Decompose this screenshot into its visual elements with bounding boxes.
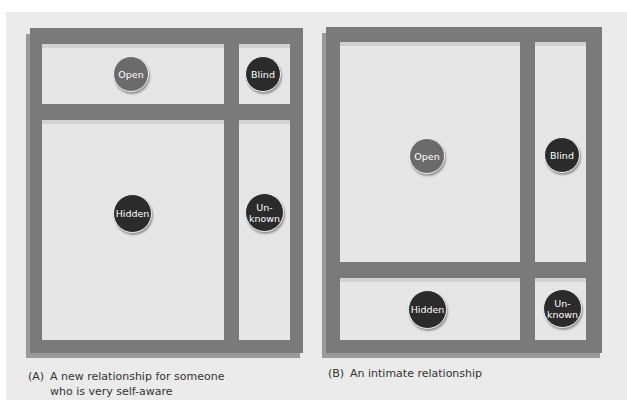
panel-b-unknown-line2: known xyxy=(547,309,578,320)
panel-a-open-label: Open xyxy=(118,69,143,80)
panel-b-hidden-badge: Hidden xyxy=(408,290,447,329)
panel-a-caption: (A)A new relationship for someone who is… xyxy=(28,369,224,399)
panel-a-unknown-line2: known xyxy=(249,213,280,224)
panel-b-blind-badge: Blind xyxy=(544,137,580,173)
panel-b-hidden-label: Hidden xyxy=(411,304,445,315)
panel-b-caption: (B)An intimate relationship xyxy=(328,366,482,381)
panel-a-blind-badge: Blind xyxy=(245,56,281,92)
panel-b-open-badge: Open xyxy=(409,138,445,174)
panel-a-caption-label: (A) xyxy=(28,369,50,384)
panel-b-open-label: Open xyxy=(414,151,439,162)
panel-a-open-badge: Open xyxy=(113,56,149,92)
panel-a-hidden-label: Hidden xyxy=(116,208,150,219)
panel-b-blind-label: Blind xyxy=(550,150,574,161)
panel-b-caption-line1: An intimate relationship xyxy=(350,367,482,380)
panel-a-hidden-badge: Hidden xyxy=(113,194,152,233)
panel-a-caption-line2: who is very self-aware xyxy=(28,384,224,399)
panel-b-caption-label: (B) xyxy=(328,366,350,381)
panel-a-unknown-label: Un- known xyxy=(249,202,280,224)
panel-a-caption-line1: A new relationship for someone xyxy=(50,370,224,383)
panel-b-unknown-line1: Un- xyxy=(554,298,570,309)
panel-a-unknown-line1: Un- xyxy=(256,202,272,213)
panel-b-unknown-label: Un- known xyxy=(547,298,578,320)
panel-a-blind-label: Blind xyxy=(251,69,275,80)
panel-b-unknown-badge: Un- known xyxy=(543,289,582,328)
panel-a-unknown-badge: Un- known xyxy=(245,193,284,232)
